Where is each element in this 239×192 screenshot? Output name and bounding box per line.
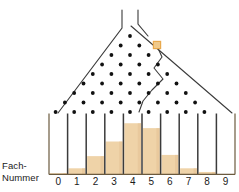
bin-bar-shade	[119, 142, 122, 175]
falling-ball	[153, 41, 160, 48]
pin-array	[54, 34, 207, 114]
bin-bar-shade	[156, 128, 159, 174]
bin-bar-shade	[138, 123, 141, 174]
axis-label-line-2: Nummer	[2, 172, 46, 184]
bin-number-2: 2	[86, 176, 105, 190]
bin-number-3: 3	[105, 176, 124, 190]
bin-number-6: 6	[161, 176, 180, 190]
bin-number-4: 4	[123, 176, 142, 190]
bin-bar-shade	[82, 168, 85, 174]
bin-number-7: 7	[179, 176, 198, 190]
bin-number-8: 8	[198, 176, 217, 190]
bin-number-5: 5	[142, 176, 161, 190]
axis-label-fach-nummer: Fach- Nummer	[2, 160, 46, 183]
bin-bar-shade	[175, 155, 178, 174]
galton-board-figure: Fach- Nummer 0123456789	[0, 0, 239, 192]
bin-bars	[50, 123, 216, 174]
bin-bar-shade	[101, 156, 104, 174]
axis-label-line-1: Fach-	[2, 160, 46, 172]
bin-number-1: 1	[68, 176, 87, 190]
bin-number-row: 0123456789	[49, 176, 235, 190]
bin-number-0: 0	[49, 176, 68, 190]
bin-number-9: 9	[216, 176, 235, 190]
bin-dividers	[49, 114, 235, 175]
bin-bar-shade	[194, 168, 197, 174]
funnel-walls	[58, 10, 232, 113]
